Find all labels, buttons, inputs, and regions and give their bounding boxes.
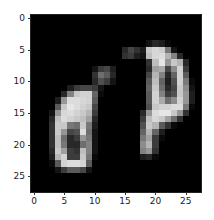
y-tick-label: 20 — [5, 140, 25, 149]
y-tick-label: 15 — [5, 108, 25, 117]
x-tick-label: 5 — [62, 197, 68, 206]
y-tick — [28, 50, 31, 51]
x-tick-label: 0 — [31, 197, 37, 206]
x-tick — [95, 192, 96, 195]
y-tick-label: 0 — [5, 14, 25, 23]
y-tick-label: 5 — [5, 45, 25, 54]
x-tick-label: 15 — [119, 197, 130, 206]
y-tick-label: 25 — [5, 172, 25, 181]
y-tick — [28, 113, 31, 114]
image-plot-area — [31, 15, 201, 192]
x-tick — [186, 192, 187, 195]
pixel-cell — [195, 186, 201, 192]
y-tick-label: 10 — [5, 77, 25, 86]
pixel-grid — [31, 15, 201, 192]
x-tick — [125, 192, 126, 195]
x-tick-label: 10 — [89, 197, 100, 206]
y-tick — [28, 176, 31, 177]
x-tick — [34, 192, 35, 195]
y-tick — [28, 145, 31, 146]
y-tick — [28, 81, 31, 82]
x-tick-label: 25 — [180, 197, 191, 206]
y-tick — [28, 18, 31, 19]
x-tick-label: 20 — [150, 197, 161, 206]
x-tick — [155, 192, 156, 195]
x-tick — [64, 192, 65, 195]
